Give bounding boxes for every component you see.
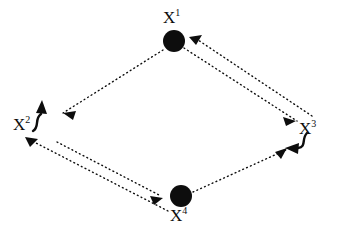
- node-label-x3-base: X: [299, 119, 311, 138]
- node-label-x3-superscript: 3: [311, 118, 316, 129]
- node-label-x3: X3: [299, 119, 316, 137]
- node-label-x1: X1: [163, 8, 180, 26]
- arrowhead-x2-in: [63, 111, 76, 120]
- edge-x2-to-x4: [57, 142, 163, 205]
- node-label-x4-superscript: 4: [182, 205, 187, 216]
- edge-x4-to-x2: [25, 137, 168, 211]
- node-label-x2-base: X: [13, 115, 25, 134]
- arrowhead-curve-x2: [36, 100, 47, 114]
- edge-x3-to-x1: [189, 35, 312, 116]
- node-label-x4-base: X: [170, 206, 182, 225]
- edge-x1-to-x3: [184, 48, 297, 126]
- directed-graph: [0, 0, 337, 239]
- node-marker-x1: [163, 30, 185, 52]
- node-label-x1-base: X: [163, 8, 175, 27]
- node-label-x2-superscript: 2: [25, 114, 30, 125]
- curved-arrow-x2: [33, 100, 47, 131]
- diagram-canvas: X1 X2 X3 X4: [0, 0, 337, 239]
- edge-x4-to-x3: [193, 148, 288, 192]
- arrowhead-curve-x3: [285, 143, 299, 154]
- arrowhead-x4-in: [150, 196, 163, 205]
- node-label-x2: X2: [13, 115, 30, 133]
- node-label-x4: X4: [170, 206, 187, 224]
- edge-x1-to-x2: [63, 50, 163, 120]
- arrowhead-x1-in: [189, 35, 202, 45]
- node-label-x1-superscript: 1: [175, 7, 180, 18]
- node-marker-x4: [170, 185, 192, 207]
- arrowhead-x3-in-lower: [275, 148, 287, 159]
- arrowhead-x2-in-lower: [25, 137, 38, 147]
